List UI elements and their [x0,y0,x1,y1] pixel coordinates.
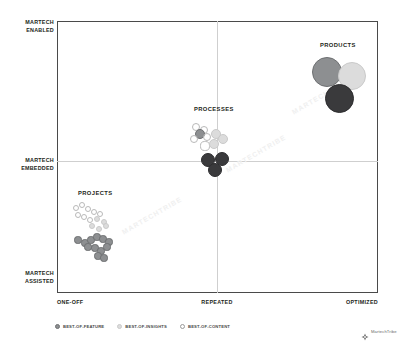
data-point-projects [100,254,107,261]
y-axis-label-embedded-line1: MARTECH [0,157,54,165]
cluster-label-products: PRODUCTS [320,42,356,48]
x-axis-label-optimized: OPTIMIZED [346,299,378,305]
compass-diamond-icon [361,327,369,335]
y-axis-label-embedded-line2: EMBEDDED [0,165,54,173]
legend-item-best-of-insights[interactable]: BEST-OF-INSIGHTS [117,324,167,329]
legend-swatch-feature-icon [55,324,60,329]
data-point-projects [103,243,110,250]
legend-label-best-of-content: BEST-OF-CONTENT [188,324,230,329]
y-axis-label-enabled-line2: ENABLED [0,27,54,35]
x-axis-label-repeated: REPEATED [201,299,232,305]
y-axis-label-martech-enabled: MARTECH ENABLED [0,19,54,34]
legend-label-best-of-insights: BEST-OF-INSIGHTS [125,324,167,329]
legend-item-best-of-content[interactable]: BEST-OF-CONTENT [180,324,230,329]
cluster-label-processes: PROCESSES [194,106,234,112]
y-axis-label-assisted-line1: MARTECH [0,270,54,278]
legend-label-best-of-feature: BEST-OF-FEATURE [63,324,104,329]
x-axis-label-one-off: ONE-OFF [57,299,83,305]
cluster-label-projects: PROJECTS [78,190,112,196]
brand-name: MartechTribe [371,329,397,334]
bubble-quadrant-chart: MARTECH ENABLED MARTECH EMBEDDED MARTECH… [0,0,417,360]
y-axis-label-assisted-line2: ASSISTED [0,278,54,286]
legend-item-best-of-feature[interactable]: BEST-OF-FEATURE [55,324,104,329]
y-axis-label-martech-assisted: MARTECH ASSISTED [0,270,54,285]
legend-swatch-insights-icon [117,324,122,329]
legend-swatch-content-icon [180,324,185,329]
chart-legend: BEST-OF-FEATURE BEST-OF-INSIGHTS BEST-OF… [55,324,230,329]
brand-logo: MartechTribe [361,327,397,335]
data-point-processes [209,139,219,149]
y-axis-label-enabled-line1: MARTECH [0,19,54,27]
data-point-products [325,84,354,113]
y-axis-label-martech-embedded: MARTECH EMBEDDED [0,157,54,172]
data-point-processes [208,163,222,177]
